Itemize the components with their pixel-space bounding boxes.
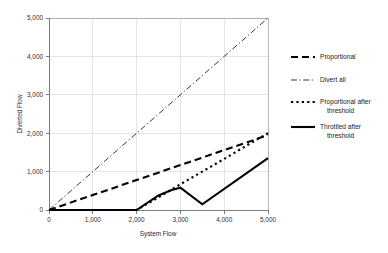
y-tick-label-5000: 5,000 — [27, 14, 43, 21]
legend-item-proportional-after-threshold[interactable]: Proportional after threshold — [291, 98, 371, 114]
chart-legend: Proportional Divert all Proportional aft… — [291, 53, 371, 139]
y-tick-label-1000: 1,000 — [27, 168, 43, 175]
legend-label-divert-all: Divert all — [320, 76, 346, 83]
x-tick-label-0: 0 — [47, 216, 51, 223]
y-tick-label-2000: 2,000 — [27, 130, 43, 137]
x-axis-tick-labels: 0 1,000 2,000 3,000 4,000 5,000 — [47, 216, 276, 223]
y-axis-tick-labels: 5,000 4,000 3,000 2,000 1,000 0 — [27, 14, 43, 213]
x-tick-label-2000: 2,000 — [129, 216, 145, 223]
x-tick-label-1000: 1,000 — [85, 216, 101, 223]
y-axis-ticks — [46, 18, 50, 210]
legend-item-divert-all[interactable]: Divert all — [291, 76, 346, 83]
legend-item-proportional[interactable]: Proportional — [291, 53, 356, 61]
x-tick-label-5000: 5,000 — [260, 216, 276, 223]
legend-label-proportional: Proportional — [320, 53, 356, 61]
chart-container: 5,000 4,000 3,000 2,000 1,000 0 0 1,000 … — [0, 0, 388, 253]
legend-item-throttled-after-threshold[interactable]: Throttled after threshold — [291, 123, 362, 139]
legend-label-throttled-after-threshold-line2: threshold — [327, 132, 354, 139]
x-axis-title: System Flow — [140, 230, 177, 238]
x-tick-label-3000: 3,000 — [172, 216, 188, 223]
y-tick-label-0: 0 — [39, 206, 43, 213]
y-tick-label-3000: 3,000 — [27, 91, 43, 98]
legend-label-throttled-after-threshold: Throttled after — [320, 123, 362, 130]
y-axis-title: Diverted Flow — [16, 94, 23, 133]
y-tick-label-4000: 4,000 — [27, 53, 43, 60]
line-chart: 5,000 4,000 3,000 2,000 1,000 0 0 1,000 … — [0, 0, 388, 253]
legend-label-proportional-after-threshold: Proportional after — [320, 98, 371, 106]
legend-label-proportional-after-threshold-line2: threshold — [327, 107, 354, 114]
x-tick-label-4000: 4,000 — [216, 216, 232, 223]
